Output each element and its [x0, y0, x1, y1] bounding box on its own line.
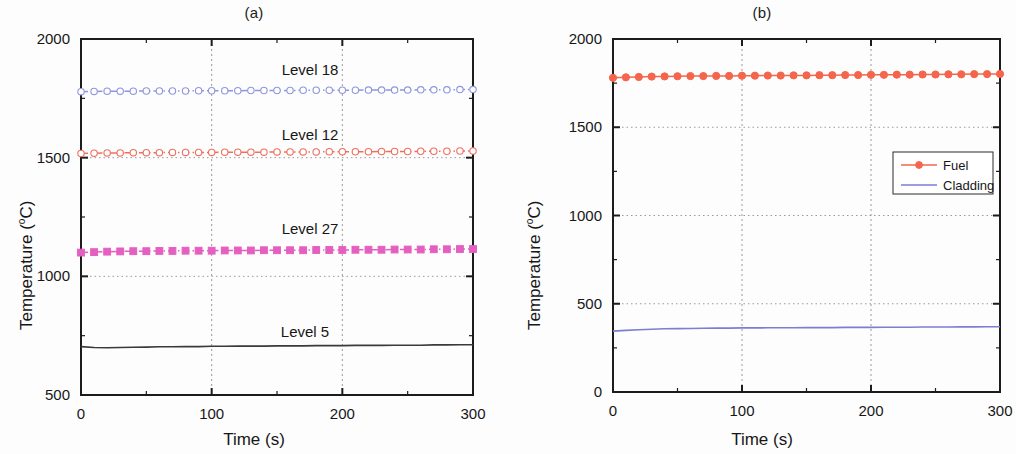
series-level-12 [78, 148, 476, 157]
y-tick-label: 500 [45, 386, 70, 403]
y-tick-label: 500 [577, 295, 602, 312]
annotation-level-12: Level 12 [282, 126, 339, 143]
y-tick-label: 1000 [569, 207, 602, 224]
x-tick-label: 0 [609, 402, 617, 419]
panel-a: (a) Temperature (oC) 5001000150020000100… [0, 0, 508, 454]
legend: FuelCladding [893, 152, 994, 194]
panel-b-plot: 05001000150020000100200300FuelCladding [508, 0, 1016, 420]
figure-root: (a) Temperature (oC) 5001000150020000100… [0, 0, 1016, 454]
annotation-level-5: Level 5 [281, 323, 329, 340]
series-fuel [609, 70, 1003, 81]
series-level-5 [81, 345, 473, 348]
x-tick-label: 100 [199, 405, 224, 420]
panel-b: (b) Temperature (oC) 0500100015002000010… [508, 0, 1016, 454]
x-tick-label: 300 [460, 405, 485, 420]
y-tick-label: 1000 [37, 267, 70, 284]
x-tick-label: 0 [77, 405, 85, 420]
legend-label: Cladding [943, 178, 994, 193]
x-tick-label: 200 [330, 405, 355, 420]
y-tick-label: 2000 [569, 30, 602, 47]
panel-a-plot: 5001000150020000100200300Level 18Level 1… [0, 0, 508, 420]
legend-label: Fuel [943, 158, 968, 173]
panel-a-x-axis-title: Time (s) [0, 430, 508, 450]
panel-b-x-axis-title: Time (s) [508, 430, 1016, 450]
series-level-18 [78, 86, 476, 95]
series-level-27 [78, 246, 477, 256]
y-tick-label: 2000 [37, 30, 70, 47]
x-tick-label: 300 [987, 402, 1012, 419]
y-tick-label: 1500 [37, 149, 70, 166]
series-cladding [613, 327, 1000, 331]
y-tick-label: 0 [594, 383, 602, 400]
annotation-level-18: Level 18 [282, 61, 339, 78]
y-tick-label: 1500 [569, 118, 602, 135]
annotation-level-27: Level 27 [282, 220, 339, 237]
x-tick-label: 100 [729, 402, 754, 419]
x-tick-label: 200 [858, 402, 883, 419]
